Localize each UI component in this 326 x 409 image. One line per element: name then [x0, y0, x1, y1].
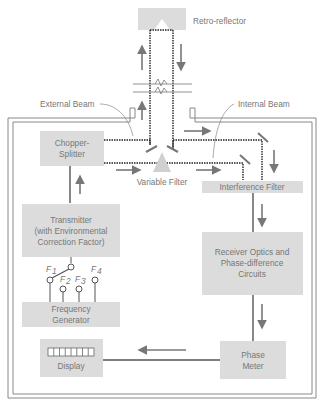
- svg-text:Phase: Phase: [241, 350, 265, 360]
- svg-text:Correction Factor): Correction Factor): [38, 237, 105, 247]
- internal-beam-pointer: [213, 104, 234, 158]
- variable-filter: [153, 152, 171, 172]
- frequency-generator-box: Frequency Generator: [22, 302, 120, 327]
- retro-reflector: [138, 8, 186, 30]
- svg-text:Splitter: Splitter: [59, 149, 85, 159]
- svg-text:4: 4: [97, 266, 102, 276]
- beam-path-vertical: [150, 30, 173, 150]
- svg-text:2: 2: [65, 276, 71, 286]
- svg-text:1: 1: [52, 266, 57, 276]
- interference-filter-box: Interference Filter: [202, 181, 303, 193]
- chopper-splitter-box: Chopper- Splitter: [40, 131, 104, 166]
- display-box: Display: [40, 339, 103, 377]
- svg-text:Chopper-: Chopper-: [55, 138, 90, 148]
- svg-text:Transmitter: Transmitter: [50, 215, 92, 225]
- svg-text:Interference Filter: Interference Filter: [219, 182, 284, 192]
- svg-text:Frequency: Frequency: [51, 304, 91, 314]
- svg-text:Display: Display: [57, 361, 85, 371]
- svg-text:Phase-difference: Phase-difference: [221, 258, 284, 268]
- receiver-optics-box: Receiver Optics and Phase-difference Cir…: [202, 232, 303, 295]
- transmitter-box: Transmitter (with Environmental Correcti…: [22, 204, 120, 257]
- digit-readout-icon: [48, 348, 94, 356]
- external-beam-label: External Beam: [40, 99, 95, 109]
- svg-text:(with Environmental: (with Environmental: [35, 226, 108, 236]
- svg-text:Receiver Optics and: Receiver Optics and: [215, 247, 290, 257]
- external-beam-pointer: [100, 104, 133, 136]
- phase-meter-box: Phase Meter: [220, 341, 286, 379]
- svg-text:Circuits: Circuits: [238, 269, 266, 279]
- svg-text:3: 3: [81, 276, 86, 286]
- svg-text:Generator: Generator: [52, 315, 90, 325]
- rangefinder-diagram: Retro-reflector External Beam Internal B…: [0, 0, 326, 409]
- variable-filter-label: Variable Filter: [137, 177, 188, 187]
- distance-break-symbol: [133, 79, 192, 94]
- internal-beam-label: Internal Beam: [238, 99, 290, 109]
- beam-path-horizontal: [104, 140, 262, 180]
- retro-reflector-label: Retro-reflector: [193, 16, 246, 26]
- svg-text:Meter: Meter: [242, 361, 263, 371]
